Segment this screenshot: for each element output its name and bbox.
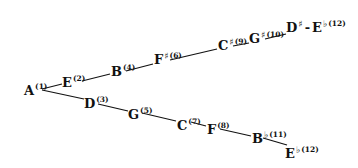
note-label: G (128, 107, 139, 122)
node-f: F(8) (207, 121, 230, 137)
node-g: G(5) (128, 106, 152, 122)
node-f-sharp: F♯(6) (154, 51, 182, 67)
flat-icon: ♭ (264, 130, 268, 140)
note-label: B (111, 64, 122, 79)
order-number: (7) (188, 117, 200, 126)
note-label: D (84, 96, 95, 111)
edge-a-d (42, 90, 84, 99)
sharp-icon: ♯ (298, 19, 302, 29)
flat-icon: ♭ (296, 145, 300, 155)
node-d: D(3) (84, 95, 109, 111)
node-d-sharp-e-flat: D♯-E♭(12) (286, 19, 346, 35)
node-e: E(2) (62, 74, 85, 90)
sharp-icon: ♯ (261, 30, 265, 40)
order-number: (6) (170, 51, 182, 60)
note-label: F (154, 52, 163, 67)
note-label: F (207, 122, 216, 137)
note-label-enharmonic: E (312, 20, 322, 35)
order-number: (12) (301, 145, 319, 154)
circle-of-fifths-branch-diagram: A(1) E(2) B(4) F♯(6) C♯(9) G♯(10) D♯-E♭(… (0, 0, 358, 168)
order-number: (12) (328, 19, 346, 28)
note-label: D (286, 20, 297, 35)
note-label: G (249, 31, 260, 46)
node-a: A(1) (24, 82, 47, 98)
node-c-sharp: C♯(9) (218, 37, 247, 53)
order-number: (8) (217, 121, 229, 130)
order-number: (11) (269, 130, 287, 139)
note-label: B (252, 131, 263, 146)
note-label: C (218, 38, 228, 53)
sharp-icon: ♯ (229, 37, 233, 47)
node-e-flat: E♭(12) (285, 145, 319, 161)
node-c: C(7) (177, 117, 201, 133)
order-number: (5) (140, 106, 152, 115)
node-b-flat: B♭(11) (252, 130, 287, 146)
node-b: B(4) (111, 63, 135, 79)
order-number: (9) (235, 37, 247, 46)
edge-e-b (82, 74, 110, 81)
flat-icon: ♭ (323, 19, 327, 29)
node-g-sharp: G♯(10) (249, 30, 284, 46)
note-label: A (24, 83, 34, 98)
sharp-icon: ♯ (164, 51, 168, 61)
order-number: (10) (266, 30, 284, 39)
order-number: (2) (73, 74, 85, 83)
note-label: E (62, 75, 72, 90)
order-number: (1) (35, 82, 47, 91)
order-number: (4) (123, 63, 135, 72)
note-label: C (177, 118, 187, 133)
enharmonic-dash: - (305, 20, 310, 35)
order-number: (3) (96, 95, 108, 104)
note-label: E (285, 146, 295, 161)
